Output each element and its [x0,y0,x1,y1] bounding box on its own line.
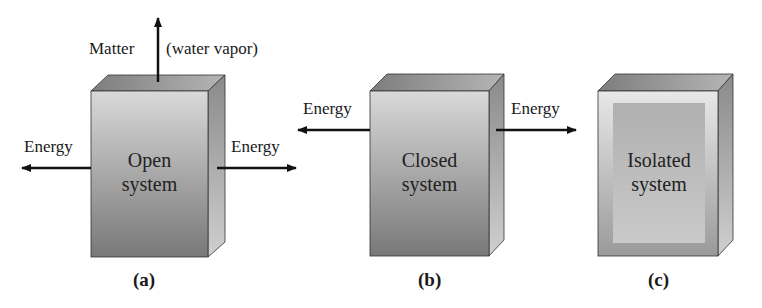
isolated-system-label: Isolated system [613,148,705,196]
caption-a: (a) [133,270,155,289]
energy-label-right-b: Energy [511,100,560,117]
isolated-system-label-line1: Isolated [613,148,705,172]
energy-label-right-a: Energy [231,138,280,155]
open-system-label: Open system [91,148,208,196]
closed-system-label-line2: system [370,172,489,196]
closed-system-label-line1: Closed [370,148,489,172]
caption-c: (c) [648,270,669,289]
open-system-label-line1: Open [91,148,208,172]
water-vapor-label: (water vapor) [166,40,258,57]
closed-system-label: Closed system [370,148,489,196]
open-system-label-line2: system [91,172,208,196]
matter-label: Matter [89,40,134,57]
isolated-system-label-line2: system [613,172,705,196]
caption-b: (b) [418,270,441,289]
energy-label-left-b: Energy [303,100,352,117]
energy-label-left-a: Energy [24,138,73,155]
